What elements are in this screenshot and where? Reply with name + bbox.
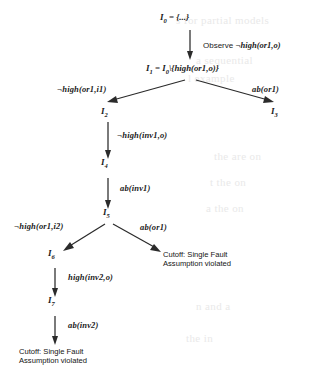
edge-I4-I5: [105, 178, 111, 209]
node-I0-equation: = {...}: [169, 12, 189, 22]
node-I2-index: 2: [105, 111, 108, 118]
node-I2: I2: [101, 107, 108, 119]
node-I6-index: 6: [52, 253, 55, 260]
edge-label-or1-i2: ¬high(or1,i2): [14, 222, 63, 231]
edge-label-inv2-o: high(inv2,o): [68, 273, 113, 282]
observe-keyword: Observe: [203, 41, 233, 50]
edge-label-observe: Observe ¬high(or1,o): [203, 41, 281, 50]
edge-layer: [0, 0, 319, 383]
edge-I0-I1: [187, 30, 193, 60]
edge-label-ab-or1-bottom: ab(or1): [140, 223, 167, 232]
edge-label-or1-i1: ¬high(or1,i1): [57, 85, 106, 94]
edge-I1-I2: [107, 80, 185, 103]
cutoff-1-line-2: Assumption violated: [163, 259, 231, 268]
edge-I5-I6: [63, 224, 105, 251]
edge-label-ab-inv2: ab(inv2): [68, 321, 98, 330]
node-I1-equation-tail: \{high(or1,o)}: [169, 63, 219, 73]
diagram-canvas: s for partial models a sequential l exam…: [0, 0, 319, 383]
cutoff-2-line-2: Assumption violated: [19, 356, 87, 365]
edge-I2-I4: [105, 122, 111, 159]
edge-label-inv1-o: ¬high(inv1,o): [117, 131, 167, 140]
node-I3-index: 3: [275, 111, 278, 118]
node-I1-index: 1: [150, 68, 153, 75]
node-I7-index: 7: [52, 300, 55, 307]
node-I4-index: 4: [105, 162, 108, 169]
node-I7: I7: [48, 296, 55, 308]
node-I0-index: 0: [164, 17, 167, 24]
terminal-cutoff-1: Cutoff: Single Fault Assumption violated: [163, 250, 231, 269]
node-I6: I6: [48, 249, 55, 261]
edge-I7-cutoff2: [52, 316, 58, 345]
node-I4: I4: [101, 158, 108, 170]
node-I5: I5: [103, 208, 110, 220]
node-I1: I1 = I0\{high(or1,o)}: [146, 64, 219, 76]
node-I5-index: 5: [107, 212, 110, 219]
cutoff-1-line-1: Cutoff: Single Fault: [163, 250, 231, 259]
node-I1-equation-lead: = I: [155, 63, 166, 73]
node-I3: I3: [271, 107, 278, 119]
edge-label-ab-inv1: ab(inv1): [120, 184, 150, 193]
cutoff-2-line-1: Cutoff: Single Fault: [19, 347, 87, 356]
observe-formula: ¬high(or1,o): [235, 40, 280, 50]
edge-I6-I7: [52, 268, 58, 297]
node-I0: I0 = {...}: [160, 13, 189, 25]
edge-label-ab-or1-top: ab(or1): [252, 85, 279, 94]
terminal-cutoff-2: Cutoff: Single Fault Assumption violated: [19, 347, 87, 366]
